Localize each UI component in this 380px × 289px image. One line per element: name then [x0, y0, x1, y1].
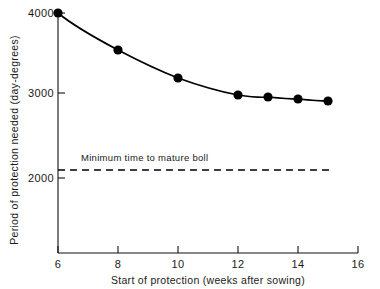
x-tick-label-12: 12	[231, 258, 244, 270]
x-tick-label-6: 6	[55, 258, 62, 270]
minimum-time-annotation-label: Minimum time to mature boll	[81, 152, 208, 163]
data-point-week-10	[173, 73, 182, 82]
x-tick-label-16: 16	[351, 258, 364, 270]
x-axis-title: Start of protection (weeks after sowing)	[111, 274, 305, 286]
chart-figure: 4000 3000 2000 6 8 10 12 14 16 Start of …	[0, 0, 380, 289]
series-line-period-of-protection	[58, 13, 328, 101]
x-tick-label-8: 8	[115, 258, 122, 270]
data-point-week-14	[293, 94, 302, 103]
y-tick-label-4000: 4000	[28, 7, 54, 19]
y-tick-label-3000: 3000	[28, 87, 54, 99]
y-tick-label-2000: 2000	[28, 172, 54, 184]
line-chart-canvas: 4000 3000 2000 6 8 10 12 14 16 Start of …	[0, 0, 380, 289]
y-axis-title: Period of protection needed (day-degrees…	[8, 35, 20, 245]
data-point-week-8	[113, 45, 122, 54]
x-tick-label-10: 10	[171, 258, 184, 270]
data-point-week-6	[53, 8, 62, 17]
data-point-week-13	[263, 92, 272, 101]
data-point-week-12	[233, 90, 242, 99]
x-tick-label-14: 14	[291, 258, 304, 270]
data-point-week-15	[323, 96, 332, 105]
